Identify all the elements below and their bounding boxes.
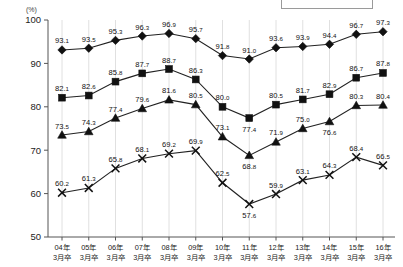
data-point-marker-square [299,96,306,103]
x-axis-tick-label: 08年 [161,243,177,252]
data-point-marker-square [139,70,146,77]
data-point-label: 86.7 [349,64,364,73]
data-point-marker-triangle [325,117,334,125]
data-point-marker-triangle [165,96,174,104]
data-point-marker-diamond [85,44,93,52]
x-axis-tick-label: 3月卒 [347,253,365,262]
y-axis-tick-label: 100 [25,14,41,25]
data-point-label: 74.3 [82,118,97,127]
data-point-label: 91.0 [242,46,257,55]
y-axis-tick-label: 80 [30,101,41,112]
data-point-label: 66.5 [376,152,391,161]
y-axis-tick-label: 70 [30,145,41,156]
data-point-label: 87.7 [135,60,150,69]
data-point-label: 80.5 [269,91,284,100]
data-point-marker-diamond [379,28,387,36]
data-point-marker-diamond [352,30,360,38]
data-point-label: 69.2 [162,140,177,149]
data-point-label: 82.6 [82,82,97,91]
data-point-label: 93.9 [296,33,311,42]
data-point-marker-diamond [192,34,200,42]
x-axis-tick-label: 3月卒 [106,253,124,262]
x-axis-tick-label: 14年 [322,243,338,252]
data-point-label: 73.1 [216,123,231,132]
data-point-marker-square [353,74,360,81]
data-point-marker-diamond [325,40,333,48]
data-point-label: 93.6 [269,34,284,43]
data-point-label: 96.3 [135,23,150,32]
x-axis-tick-label: 15年 [349,243,365,252]
data-point-marker-diamond [58,46,66,54]
y-axis-tick-label: 90 [30,58,41,69]
x-axis-tick-label: 3月卒 [53,253,71,262]
y-axis-tick-label: 50 [30,231,41,242]
data-point-label: 95.7 [189,25,204,34]
data-point-label: 82.9 [323,81,338,90]
x-axis-tick-label: 06年 [108,243,124,252]
data-point-label: 68.8 [242,162,257,171]
data-point-label: 88.7 [162,56,177,65]
data-point-label: 75.0 [296,115,311,124]
x-axis-tick-label: 10年 [215,243,231,252]
x-axis-tick-label: 07年 [135,243,151,252]
x-axis-tick-label: 3月卒 [320,253,338,262]
data-point-label: 79.6 [135,95,150,104]
data-point-marker-square [219,103,226,110]
data-point-label: 81.7 [296,86,311,95]
data-point-label: 91.8 [216,42,231,51]
data-point-label: 65.8 [109,155,124,164]
data-point-label: 64.3 [323,161,338,170]
data-point-marker-triangle [272,138,281,146]
data-point-marker-square [380,70,387,77]
data-point-label: 77.4 [109,105,124,114]
data-point-marker-square [326,91,333,98]
data-point-label: 96.7 [349,21,364,30]
data-point-label: 97.3 [376,18,391,27]
data-point-label: 68.1 [135,145,150,154]
data-point-label: 96.9 [162,20,177,29]
x-axis-tick-label: 3月卒 [133,253,151,262]
data-point-label: 61.3 [82,174,97,183]
y-axis-tick-label: 60 [30,188,41,199]
x-axis-tick-label: 05年 [81,243,97,252]
x-axis-tick-label: 3月卒 [160,253,178,262]
data-point-marker-diamond [218,51,226,59]
x-axis-tick-label: 3月卒 [213,253,231,262]
data-point-marker-triangle [379,101,388,109]
data-point-label: 94.4 [323,31,338,40]
data-point-marker-diamond [138,32,146,40]
x-axis-tick-label: 16年 [375,243,391,252]
data-point-label: 80.0 [216,93,231,102]
x-axis-tick-label: 11年 [242,243,258,252]
data-point-label: 93.1 [55,36,70,45]
chart-canvas: 5060708090100(%)04年3月卒05年3月卒06年3月卒07年3月卒… [0,0,403,267]
x-axis-tick-label: 3月卒 [80,253,98,262]
x-axis-tick-label: 13年 [295,243,311,252]
data-point-marker-diamond [111,36,119,44]
data-point-label: 69.9 [189,137,204,146]
x-axis-tick-label: 04年 [54,243,70,252]
data-point-marker-diamond [165,29,173,37]
data-point-marker-diamond [245,55,253,63]
data-point-label: 62.5 [216,169,231,178]
data-point-marker-square [59,94,66,101]
data-point-label: 85.8 [109,68,124,77]
data-point-marker-diamond [272,44,280,52]
y-axis-unit-label: (%) [26,6,37,14]
data-point-marker-square [273,101,280,108]
x-axis-tick-label: 3月卒 [294,253,312,262]
x-axis-tick-label: 3月卒 [187,253,205,262]
x-axis-tick-label: 3月卒 [267,253,285,262]
data-point-label: 80.5 [189,91,204,100]
data-point-label: 81.6 [162,86,177,95]
line-chart: 5060708090100(%)04年3月卒05年3月卒06年3月卒07年3月卒… [0,0,403,267]
data-point-label: 82.1 [55,84,70,93]
x-axis-tick-label: 3月卒 [374,253,392,262]
data-point-label: 59.9 [269,181,284,190]
data-point-marker-square [112,78,119,85]
data-point-label: 80.3 [349,92,364,101]
data-point-label: 68.4 [349,144,364,153]
x-axis-tick-label: 12年 [268,243,284,252]
data-point-label: 76.6 [323,128,338,137]
x-axis-tick-label: 3月卒 [240,253,258,262]
